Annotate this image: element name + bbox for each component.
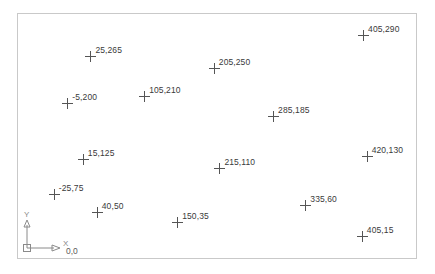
point-coordinate-label: 205,250 — [219, 57, 250, 67]
ucs-y-label: Y — [24, 212, 30, 219]
point-coordinate-label: 25,265 — [95, 45, 122, 55]
drawing-canvas: 25,265405,290205,250105,210-5,200285,185… — [0, 0, 435, 274]
point-coordinate-label: 405,15 — [367, 225, 394, 235]
point-coordinate-label: 105,210 — [149, 85, 180, 95]
point-coordinate-label: 40,50 — [102, 201, 124, 211]
point-coordinate-label: 405,290 — [368, 24, 399, 34]
point-coordinate-label: 150,35 — [182, 211, 209, 221]
point-coordinate-label: 215,110 — [224, 157, 255, 167]
ucs-origin-label: 0,0 — [66, 246, 78, 256]
point-coordinate-label: 335,60 — [310, 194, 337, 204]
point-coordinate-label: 420,130 — [372, 145, 403, 155]
point-coordinate-label: 15,125 — [88, 148, 115, 158]
point-coordinate-label: -5,200 — [72, 92, 97, 102]
ucs-axis-icon: Y X 0,0 — [18, 212, 84, 258]
point-coordinate-label: -25,75 — [59, 183, 84, 193]
point-coordinate-label: 285,185 — [278, 105, 309, 115]
